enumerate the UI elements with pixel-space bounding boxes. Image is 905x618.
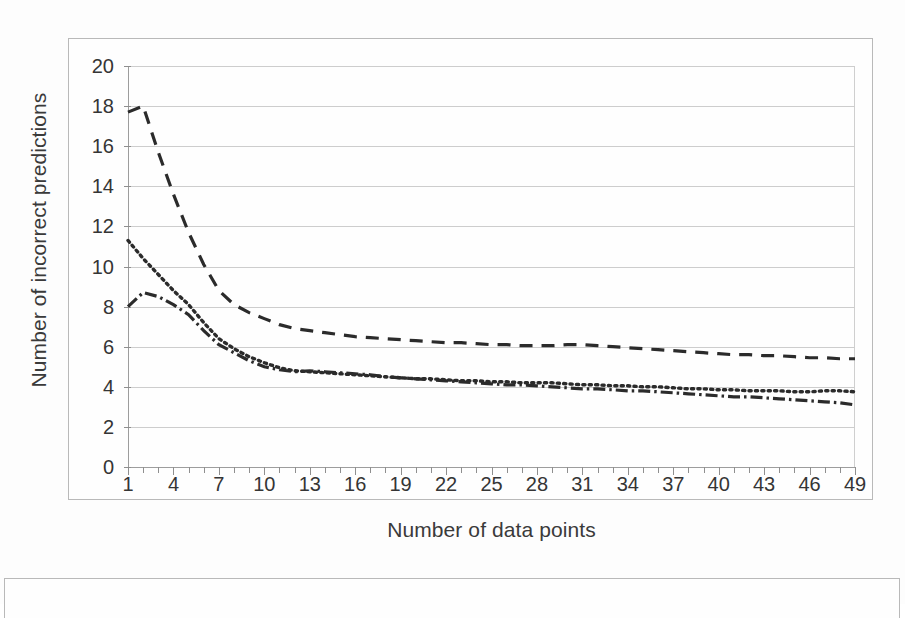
x-tick-label-34: 34 bbox=[608, 474, 648, 494]
y-tick-label-8: 8 bbox=[72, 297, 114, 317]
x-tick-label-10: 10 bbox=[244, 474, 284, 494]
x-tick-mark-38 bbox=[688, 467, 689, 473]
x-tick-label-28: 28 bbox=[517, 474, 557, 494]
x-tick-label-4: 4 bbox=[153, 474, 193, 494]
x-tick-mark-5 bbox=[189, 467, 190, 473]
x-tick-label-37: 37 bbox=[653, 474, 693, 494]
x-tick-mark-3 bbox=[158, 467, 159, 473]
x-tick-mark-23 bbox=[461, 467, 462, 473]
y-tick-mark-14 bbox=[124, 186, 131, 187]
x-axis-title: Number of data points bbox=[128, 518, 855, 542]
y-tick-mark-12 bbox=[124, 226, 131, 227]
x-tick-mark-9 bbox=[249, 467, 250, 473]
gridline-y-18 bbox=[128, 106, 855, 107]
y-tick-label-12: 12 bbox=[72, 216, 114, 236]
x-tick-mark-33 bbox=[613, 467, 614, 473]
x-tick-mark-39 bbox=[704, 467, 705, 473]
x-tick-mark-42 bbox=[749, 467, 750, 473]
y-tick-mark-6 bbox=[124, 347, 131, 348]
gridline-y-2 bbox=[128, 427, 855, 428]
y-tick-label-4: 4 bbox=[72, 377, 114, 397]
y-tick-label-14: 14 bbox=[72, 176, 114, 196]
x-tick-mark-48 bbox=[840, 467, 841, 473]
gridline-y-20 bbox=[128, 66, 855, 67]
y-axis-title: Number of incorrect predictions bbox=[22, 30, 56, 450]
x-tick-mark-8 bbox=[234, 467, 235, 473]
y-tick-mark-2 bbox=[124, 427, 131, 428]
lower-figure-panel bbox=[4, 578, 900, 618]
x-tick-label-31: 31 bbox=[562, 474, 602, 494]
gridline-y-14 bbox=[128, 186, 855, 187]
x-tick-mark-35 bbox=[643, 467, 644, 473]
gridline-y-8 bbox=[128, 307, 855, 308]
y-tick-label-10: 10 bbox=[72, 257, 114, 277]
x-tick-mark-15 bbox=[340, 467, 341, 473]
x-tick-mark-29 bbox=[552, 467, 553, 473]
x-tick-label-7: 7 bbox=[199, 474, 239, 494]
y-tick-label-20: 20 bbox=[72, 56, 114, 76]
x-tick-mark-6 bbox=[204, 467, 205, 473]
x-tick-mark-20 bbox=[416, 467, 417, 473]
x-tick-mark-30 bbox=[567, 467, 568, 473]
x-tick-mark-12 bbox=[295, 467, 296, 473]
x-tick-label-13: 13 bbox=[290, 474, 330, 494]
x-tick-mark-2 bbox=[143, 467, 144, 473]
x-tick-mark-24 bbox=[476, 467, 477, 473]
plot-area bbox=[128, 66, 855, 467]
x-tick-mark-45 bbox=[794, 467, 795, 473]
y-tick-mark-10 bbox=[124, 267, 131, 268]
x-tick-mark-11 bbox=[279, 467, 280, 473]
gridline-y-10 bbox=[128, 267, 855, 268]
x-tick-label-19: 19 bbox=[381, 474, 421, 494]
x-tick-mark-32 bbox=[598, 467, 599, 473]
y-tick-mark-8 bbox=[124, 307, 131, 308]
y-tick-label-2: 2 bbox=[72, 417, 114, 437]
x-tick-label-40: 40 bbox=[699, 474, 739, 494]
gridline-y-4 bbox=[128, 387, 855, 388]
x-tick-mark-47 bbox=[825, 467, 826, 473]
x-tick-label-46: 46 bbox=[790, 474, 830, 494]
y-tick-mark-20 bbox=[124, 66, 131, 67]
gridline-y-12 bbox=[128, 226, 855, 227]
x-tick-mark-17 bbox=[370, 467, 371, 473]
x-tick-label-22: 22 bbox=[426, 474, 466, 494]
x-tick-label-1: 1 bbox=[108, 474, 148, 494]
x-tick-mark-27 bbox=[522, 467, 523, 473]
gridline-y-16 bbox=[128, 146, 855, 147]
x-tick-label-43: 43 bbox=[744, 474, 784, 494]
y-tick-mark-4 bbox=[124, 387, 131, 388]
y-tick-label-6: 6 bbox=[72, 337, 114, 357]
gridline-y-6 bbox=[128, 347, 855, 348]
x-tick-label-49: 49 bbox=[835, 474, 875, 494]
y-tick-mark-16 bbox=[124, 146, 131, 147]
y-tick-label-16: 16 bbox=[72, 136, 114, 156]
x-tick-label-25: 25 bbox=[472, 474, 512, 494]
y-tick-label-18: 18 bbox=[72, 96, 114, 116]
x-tick-label-16: 16 bbox=[335, 474, 375, 494]
x-tick-mark-44 bbox=[779, 467, 780, 473]
x-tick-mark-21 bbox=[431, 467, 432, 473]
y-tick-mark-18 bbox=[124, 106, 131, 107]
x-tick-mark-26 bbox=[507, 467, 508, 473]
x-tick-mark-18 bbox=[385, 467, 386, 473]
x-tick-mark-41 bbox=[734, 467, 735, 473]
x-tick-mark-14 bbox=[325, 467, 326, 473]
x-tick-mark-36 bbox=[658, 467, 659, 473]
